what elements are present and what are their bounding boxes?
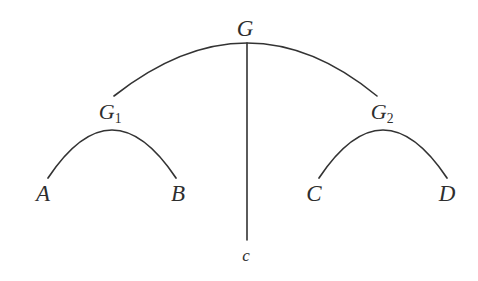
node-label-a: A bbox=[36, 182, 50, 205]
node-subscript: 2 bbox=[387, 111, 394, 126]
arc-tree-diagram: G G1 G2 A B C D c bbox=[0, 0, 478, 281]
node-label-g1: G1 bbox=[99, 101, 122, 123]
diagram-canvas bbox=[0, 0, 478, 281]
node-label-b: B bbox=[171, 182, 185, 205]
arc-root-g bbox=[114, 43, 377, 96]
arc-g2 bbox=[319, 130, 447, 178]
node-label-d: D bbox=[439, 182, 456, 205]
node-label-g2: G2 bbox=[371, 101, 394, 123]
arc-g1 bbox=[48, 130, 176, 178]
node-label-g: G bbox=[237, 17, 254, 40]
node-subscript: 1 bbox=[115, 111, 122, 126]
node-label-c-upper: C bbox=[306, 182, 321, 205]
node-label-c-terminal: c bbox=[242, 247, 250, 264]
